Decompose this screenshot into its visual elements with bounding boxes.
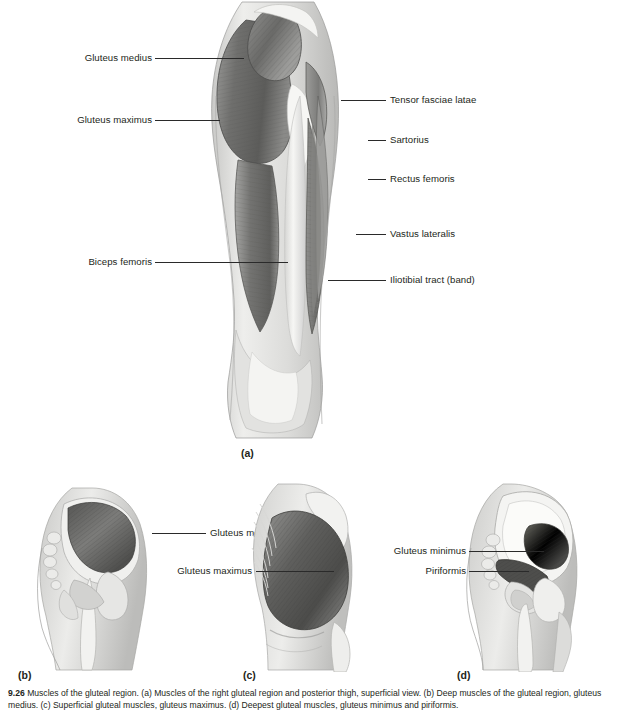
leader-vastus-lateralis-a: [356, 234, 386, 235]
leader-tensor-fasciae-latae-a: [341, 100, 386, 101]
panel-letter-c: (c): [243, 669, 256, 681]
label-tensor-fasciae-latae-a: Tensor fasciae latae: [390, 94, 476, 105]
label-rectus-femoris-a: Rectus femoris: [390, 173, 455, 184]
leader-gluteus-medius-a: [155, 58, 244, 59]
label-biceps-femoris-a: Biceps femoris: [40, 256, 152, 267]
leader-gluteus-minimus-d: [469, 551, 544, 552]
label-gluteus-medius-a: Gluteus medius: [40, 52, 152, 63]
leader-piriformis-d: [469, 571, 529, 572]
label-gluteus-minimus-d: Gluteus minimus: [358, 545, 466, 556]
leader-gluteus-maximus-a: [155, 120, 220, 121]
panel-a-illustration: [180, 0, 390, 440]
label-vastus-lateralis-a: Vastus lateralis: [390, 228, 455, 239]
leader-iliotibial-tract-a: [328, 280, 386, 281]
label-gluteus-maximus-c: Gluteus maximus: [142, 565, 252, 576]
leader-sartorius-a: [368, 140, 386, 141]
panel-d-illustration: [455, 482, 591, 672]
label-sartorius-a: Sartorius: [390, 134, 429, 145]
label-piriformis-d: Piriformis: [358, 565, 466, 576]
label-iliotibial-tract-a: Iliotibial tract (band): [390, 274, 475, 285]
leader-biceps-femoris-a: [155, 262, 288, 263]
panel-letter-a: (a): [241, 447, 254, 459]
panel-c-illustration: [238, 482, 364, 672]
figure-caption-text: Muscles of the gluteal region. (a) Muscl…: [8, 688, 601, 710]
panel-letter-d: (d): [457, 669, 470, 681]
leader-rectus-femoris-a: [368, 179, 386, 180]
figure-caption: 9.26 Muscles of the gluteal region. (a) …: [8, 688, 620, 711]
leader-gluteus-medius-b: [152, 533, 206, 534]
panel-letter-b: (b): [18, 669, 31, 681]
figure-number: 9.26: [8, 688, 25, 698]
panel-b-illustration: [28, 486, 164, 672]
leader-gluteus-maximus-c: [256, 571, 334, 572]
label-gluteus-maximus-a: Gluteus maximus: [32, 114, 152, 125]
